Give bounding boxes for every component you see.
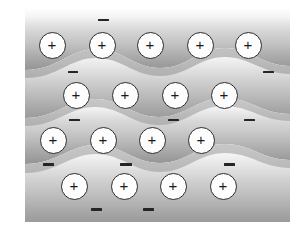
positive-ion: + bbox=[61, 173, 88, 200]
positive-ion: + bbox=[63, 82, 90, 109]
positive-ion: + bbox=[39, 32, 66, 59]
positive-ion: + bbox=[111, 173, 138, 200]
plus-icon: + bbox=[220, 87, 229, 102]
plus-icon: + bbox=[99, 132, 108, 147]
plus-icon: + bbox=[197, 132, 206, 147]
positive-ion: + bbox=[160, 173, 187, 200]
positive-ion: + bbox=[235, 32, 262, 59]
positive-ion: + bbox=[89, 32, 116, 59]
electron-minus-icon bbox=[68, 71, 78, 74]
positive-ion: + bbox=[162, 82, 189, 109]
positive-ion: + bbox=[210, 173, 237, 200]
electron-minus-icon bbox=[120, 163, 132, 166]
plus-icon: + bbox=[171, 87, 180, 102]
positive-ion: + bbox=[137, 32, 164, 59]
plus-icon: + bbox=[49, 132, 58, 147]
positive-ion: + bbox=[187, 32, 214, 59]
positive-ion: + bbox=[211, 82, 238, 109]
positive-ion: + bbox=[40, 127, 67, 154]
plus-icon: + bbox=[196, 37, 205, 52]
electron-minus-icon bbox=[143, 208, 154, 211]
plus-icon: + bbox=[148, 132, 157, 147]
plus-icon: + bbox=[244, 37, 253, 52]
plus-icon: + bbox=[72, 87, 81, 102]
electron-minus-icon bbox=[168, 119, 179, 122]
electron-minus-icon bbox=[91, 208, 102, 211]
plus-icon: + bbox=[121, 87, 130, 102]
plus-icon: + bbox=[169, 178, 178, 193]
plus-icon: + bbox=[146, 37, 155, 52]
positive-ion: + bbox=[112, 82, 139, 109]
positive-ion: + bbox=[90, 127, 117, 154]
positive-ion: + bbox=[188, 127, 215, 154]
electron-minus-icon bbox=[224, 163, 235, 166]
electron-minus-icon bbox=[43, 163, 54, 166]
positive-ion: + bbox=[139, 127, 166, 154]
plus-icon: + bbox=[48, 37, 57, 52]
electron-minus-icon bbox=[98, 19, 109, 22]
plus-icon: + bbox=[70, 178, 79, 193]
metallic-bonding-figure: + + + + + + + + + + + + + + + + bbox=[0, 0, 298, 228]
plus-icon: + bbox=[219, 178, 228, 193]
electron-minus-icon bbox=[263, 71, 274, 74]
electron-minus-icon bbox=[69, 119, 80, 122]
plus-icon: + bbox=[98, 37, 107, 52]
electron-minus-icon bbox=[244, 119, 255, 122]
plus-icon: + bbox=[120, 178, 129, 193]
